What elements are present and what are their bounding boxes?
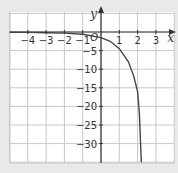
x-axis-label: x (167, 31, 174, 45)
x-tick-label: −3 (39, 35, 54, 46)
x-tick-label: 2 (134, 35, 140, 46)
x-tick-label: 1 (116, 35, 122, 46)
origin-label: O (90, 32, 98, 43)
y-tick-label: −5 (82, 46, 97, 57)
y-tick-label: −25 (76, 120, 97, 131)
y-tick-label: −30 (76, 139, 97, 150)
x-tick-label: −2 (57, 35, 72, 46)
x-tick-label: 3 (153, 35, 159, 46)
x-tick-label: −4 (20, 35, 35, 46)
graph: −4−3−2−1123−5−10−15−20−25−30Oxy (0, 0, 178, 173)
y-axis-arrow-icon (98, 6, 104, 13)
x-tick-label: −1 (75, 35, 90, 46)
y-tick-label: −10 (76, 64, 97, 75)
y-tick-label: −15 (76, 83, 97, 94)
y-axis-label: y (89, 7, 97, 21)
y-tick-label: −20 (76, 101, 97, 112)
